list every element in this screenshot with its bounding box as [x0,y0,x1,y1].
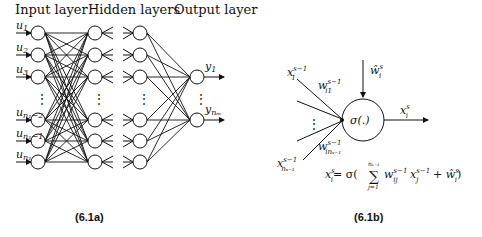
input-ellipsis: ⋮ [36,92,48,106]
svg-text:xs−1j: xs−1j [410,167,430,184]
output-label-1: y1 [204,60,216,74]
svg-text:j=1: j=1 [366,183,379,191]
sigma-node-label: σ(.) [350,114,370,127]
input-ellipsis-b: ⋮ [308,117,320,131]
hidden2-ellipsis: ⋮ [138,92,150,106]
svg-text:nₛ₋₁: nₛ₋₁ [368,160,379,167]
output-label-nm: ynₘ [204,103,221,117]
output-xi-label: xsi [400,103,410,120]
input-hidden-connections [45,33,88,162]
weight-w-i1-label: ws−1i1 [318,78,341,95]
input-label-1: u1 [16,19,28,33]
input-label-n1-minus-2: un₁−2 [16,106,43,120]
svg-text:+ ŵsi): + ŵsi) [433,167,461,184]
input-label-3: u3 [16,63,28,77]
caption-6-1a: (6.1a) [75,211,104,223]
hidden1-ellipsis: ⋮ [93,92,105,106]
input-label-2: u2 [16,41,28,55]
neural-network-diagram: ⋮ ⋮ ⋮ ⋮ u1 u2 u3 un₁−2 un₁−1 un₁ y1 ynₘ … [0,0,482,237]
caption-6-1b: (6.1b) [354,211,383,223]
svg-text:xsi= σ(: xsi= σ( [325,167,358,184]
input-xn-label: xs−1nₛ₋₁ [277,156,297,173]
hidden-output-connections [147,33,190,162]
weight-w-in-label: ws−1inₛ₋₁ [318,139,341,156]
neuron-equation: xsi= σ( ∑ nₛ₋₁ j=1 ws−1ij xs−1j + ŵsi) [325,160,461,191]
bias-label: ŵsi [370,63,383,80]
input-label-n1-minus-1: un₁−1 [16,127,43,141]
input-label-n1: un₁ [16,148,31,162]
hidden2-fanin-stubs [123,27,133,168]
svg-text:ws−1ij: ws−1ij [384,167,407,184]
sum-symbol: ∑ [369,168,379,184]
